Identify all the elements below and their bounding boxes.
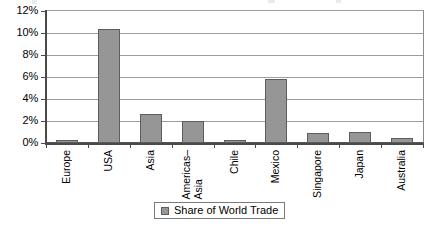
x-axis-line <box>45 143 424 145</box>
bar-chart: 0%2%4%6%8%10%12% EuropeUSAAsiaAmericas– … <box>0 0 438 230</box>
x-axis-tick <box>255 144 256 148</box>
x-axis-tick-label: Americas– Asia <box>181 150 205 200</box>
x-axis-tick <box>130 144 131 148</box>
y-axis-tick-label: 2% <box>0 115 38 126</box>
bar <box>265 79 287 143</box>
bar <box>307 133 329 143</box>
x-axis-tick-label: Asia <box>145 150 157 170</box>
x-axis-tick <box>297 144 298 148</box>
y-axis-tick-label: 6% <box>0 71 38 82</box>
x-axis-tick-label: Singapore <box>312 150 324 198</box>
y-axis-tick-label: 10% <box>0 27 38 38</box>
y-axis-tick-label: 12% <box>0 5 38 16</box>
bar <box>98 29 120 143</box>
bars-layer <box>46 11 423 143</box>
x-axis-tick-label: Mexico <box>270 150 282 183</box>
legend-swatch-icon <box>161 207 169 215</box>
legend-entry-label: Share of World Trade <box>174 205 278 216</box>
x-axis-tick <box>88 144 89 148</box>
x-axis-tick <box>46 144 47 148</box>
x-axis-tick-label: Australia <box>396 150 408 191</box>
x-axis-tick <box>381 144 382 148</box>
chart-legend: Share of World Trade <box>154 202 285 219</box>
x-axis-tick-label: USA <box>103 150 115 172</box>
x-axis-tick <box>172 144 173 148</box>
x-axis-tick <box>339 144 340 148</box>
y-axis-tick-label: 8% <box>0 49 38 60</box>
scan-artifact <box>336 0 341 3</box>
y-axis-tick-label: 4% <box>0 93 38 104</box>
x-axis-tick-label: Europe <box>61 150 73 184</box>
scan-artifact <box>268 0 275 3</box>
x-axis-tick <box>423 144 424 148</box>
x-axis-tick <box>214 144 215 148</box>
y-axis-tick-label: 0% <box>0 137 38 148</box>
bar <box>349 132 371 143</box>
x-axis-tick-label: Chile <box>229 150 241 174</box>
bar <box>182 121 204 143</box>
bar <box>140 114 162 143</box>
x-axis-tick-label: Japan <box>354 150 366 179</box>
